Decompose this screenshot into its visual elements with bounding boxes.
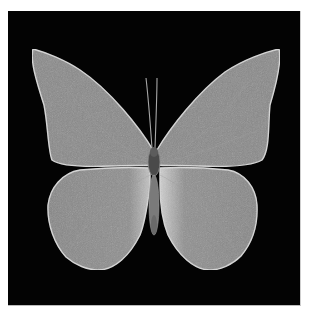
right-forewing bbox=[157, 49, 280, 166]
butterfly-body bbox=[148, 147, 160, 235]
butterfly-illustration bbox=[0, 0, 311, 314]
left-hindwing bbox=[48, 168, 150, 270]
antennae bbox=[146, 78, 157, 148]
left-forewing bbox=[32, 49, 153, 166]
